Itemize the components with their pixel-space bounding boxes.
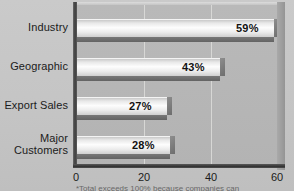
- category-axis-labels: Industry Geographic Export Sales Major C…: [0, 0, 73, 170]
- bar-value-export-sales: 27%: [129, 100, 152, 112]
- category-label-geographic: Geographic: [10, 60, 68, 72]
- bar-export-sales-shadow: [76, 115, 167, 120]
- x-axis-line: [73, 164, 285, 168]
- bar-industry-shadow: [76, 37, 274, 42]
- bar-export-sales-shadow-tip: [167, 97, 172, 115]
- x-tick-60: 60: [266, 171, 288, 183]
- x-tick-40: 40: [200, 171, 222, 183]
- category-label-major-customers: Major Customers: [14, 132, 68, 156]
- category-label-export-sales: Export Sales: [4, 99, 68, 111]
- x-tick-0: 0: [65, 171, 87, 183]
- x-axis-tick-labels: 0 20 40 60: [0, 171, 294, 185]
- bar-export-sales-body: [76, 97, 167, 115]
- bar-industry-shadow-tip: [274, 19, 277, 37]
- plot-face: 59% 43% 27% 28%: [76, 5, 277, 168]
- bar-major-customers-shadow-tip: [170, 136, 175, 154]
- bar-value-industry: 59%: [236, 22, 259, 34]
- bar-geographic-shadow-tip: [220, 58, 225, 76]
- category-label-industry: Industry: [28, 21, 68, 33]
- bar-value-geographic: 43%: [182, 61, 205, 73]
- bar-chart: Industry Geographic Export Sales Major C…: [0, 0, 294, 191]
- bar-major-customers-shadow: [76, 154, 170, 159]
- x-tick-20: 20: [133, 171, 155, 183]
- bar-major-customers-body: [76, 136, 170, 154]
- bar-value-major-customers: 28%: [132, 139, 155, 151]
- bar-geographic-shadow: [76, 76, 220, 81]
- y-axis-line: [73, 2, 77, 168]
- plot-right-wall: [277, 2, 285, 170]
- plot-area: 59% 43% 27% 28%: [73, 2, 285, 170]
- chart-footnote: *Total exceeds 100% because companies ca…: [76, 184, 291, 191]
